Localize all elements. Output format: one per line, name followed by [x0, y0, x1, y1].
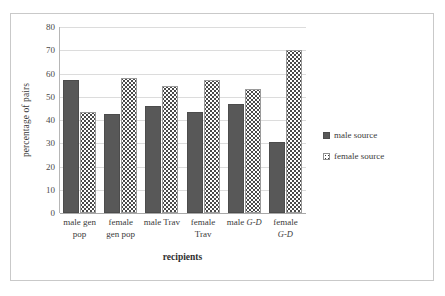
y-tick-label: 10 [46, 185, 55, 194]
y-tick-label: 40 [46, 116, 55, 125]
x-tick-line-2: gen pop [100, 229, 141, 241]
bar-female-source [204, 80, 220, 213]
chart-legend: male sourcefemale source [323, 130, 431, 172]
x-tick-label: male Trav [141, 217, 182, 229]
x-tick-label: femaleG-D [265, 217, 306, 240]
legend-swatch-female-source [323, 153, 330, 160]
y-tick-label: 50 [46, 92, 55, 101]
legend-item[interactable]: female source [323, 151, 431, 161]
bar-female-source [80, 112, 96, 213]
caption-sliver [0, 288, 445, 296]
bar-male-source [187, 112, 203, 213]
x-tick-line-2: G-D [265, 229, 306, 241]
y-tick-label: 0 [51, 209, 56, 218]
bar-group [225, 27, 266, 213]
x-tick-line-1: female [183, 217, 224, 229]
x-tick-line-2: pop [59, 229, 100, 241]
bar-male-source [269, 142, 285, 213]
legend-swatch-male-source [323, 132, 330, 139]
y-tick-label: 70 [46, 46, 55, 55]
bar-male-source [104, 114, 120, 213]
bar-group [60, 27, 101, 213]
y-tick-label: 60 [46, 69, 55, 78]
legend-item[interactable]: male source [323, 130, 431, 140]
bar-series-container [60, 27, 306, 213]
bar-group [266, 27, 307, 213]
bar-male-source [228, 104, 244, 213]
plot-area: 01020304050607080 [59, 27, 306, 213]
legend-label: female source [334, 151, 384, 161]
x-axis-title: recipients [59, 252, 306, 262]
x-tick-label: male genpop [59, 217, 100, 240]
bar-group [142, 27, 183, 213]
x-tick-italic: G-D [247, 217, 262, 227]
x-tick-line-1: male gen [59, 217, 100, 229]
x-tick-label: femalegen pop [100, 217, 141, 240]
bar-female-source [162, 86, 178, 213]
y-tick-label: 20 [46, 162, 55, 171]
x-tick-italic: G-D [278, 229, 293, 239]
bar-female-source [121, 78, 137, 213]
bar-group [184, 27, 225, 213]
bar-male-source [145, 106, 161, 213]
x-tick-label: male G-D [224, 217, 265, 229]
x-tick-label: femaleTrav [183, 217, 224, 240]
x-axis-tick-labels: male genpopfemalegen popmale TravfemaleT… [59, 215, 306, 251]
bar-female-source [245, 89, 261, 213]
x-tick-line-1: male Trav [141, 217, 182, 229]
bar-female-source [286, 50, 302, 213]
x-tick-line-1: female [100, 217, 141, 229]
y-tick-label: 80 [46, 23, 55, 32]
y-tick-label: 30 [46, 139, 55, 148]
bar-male-source [63, 80, 79, 213]
axis-baseline [60, 213, 306, 214]
legend-label: male source [334, 130, 377, 140]
figure-container: percentage of pairs 01020304050607080 ma… [0, 0, 445, 296]
x-tick-line-2: Trav [183, 229, 224, 241]
y-axis-title: percentage of pairs [19, 27, 33, 213]
x-tick-line-1: female [265, 217, 306, 229]
chart-frame: percentage of pairs 01020304050607080 ma… [10, 13, 434, 281]
bar-group [101, 27, 142, 213]
x-tick-line-1: male G-D [224, 217, 265, 229]
